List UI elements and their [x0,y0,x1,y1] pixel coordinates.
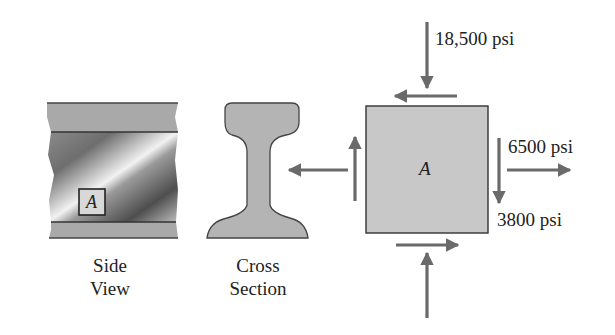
side-view-body [48,132,178,222]
shear-stress-label: 3800 psi [497,209,562,231]
stress-element-diagram: A A 18,500 psi 6500 psi 3800 psi Side Vi… [0,0,615,335]
horizontal-normal-stress-label: 6500 psi [508,136,573,158]
side-view-caption-line2: View [50,278,170,300]
side-view-caption-line1: Side [50,255,170,277]
side-view-element-label: A [86,191,97,213]
side-view-bottom-band [49,222,178,238]
side-view [47,103,178,238]
cross-section-caption-line2: Section [198,278,318,300]
cross-section-caption-line1: Cross [198,255,318,277]
vertical-normal-stress-label: 18,500 psi [435,28,514,50]
stress-element-label: A [419,158,431,180]
side-view-top-band [47,103,178,132]
